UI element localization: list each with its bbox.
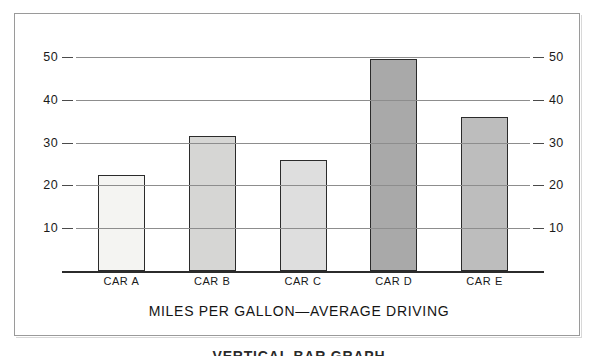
category-label-car-e: CAR E: [445, 275, 525, 287]
gridline: [76, 228, 530, 229]
y-axis-label-right: 30: [549, 137, 573, 150]
bar-car-b: [189, 136, 236, 271]
y-axis-label-left: 50: [34, 51, 58, 64]
bar-car-a: [98, 175, 145, 271]
gridline: [76, 143, 530, 144]
y-axis-tick-right-zero: [533, 271, 544, 273]
y-axis-tick-right: [533, 100, 544, 101]
gridline: [76, 185, 530, 186]
bar-car-c: [280, 160, 327, 271]
x-axis-baseline: [72, 271, 534, 273]
gridline: [76, 57, 530, 58]
y-axis-label-left: 20: [34, 179, 58, 192]
category-label-car-c: CAR C: [263, 275, 343, 287]
y-axis-tick-left: [62, 228, 73, 229]
chart-caption: MILES PER GALLON—AVERAGE DRIVING: [0, 303, 598, 319]
y-axis-label-left: 10: [34, 222, 58, 235]
category-label-car-b: CAR B: [172, 275, 252, 287]
y-axis-label-right: 40: [549, 94, 573, 107]
y-axis-label-left: 40: [34, 94, 58, 107]
category-label-row: CAR ACAR BCAR CCAR DCAR E: [76, 275, 530, 291]
y-axis-tick-right: [533, 143, 544, 144]
y-axis-tick-left: [62, 57, 73, 58]
y-axis-tick-right: [533, 185, 544, 186]
y-axis-label-right: 20: [549, 179, 573, 192]
category-label-car-a: CAR A: [81, 275, 161, 287]
y-axis-tick-left: [62, 185, 73, 186]
y-axis-tick-left: [62, 143, 73, 144]
bar-series: [76, 57, 530, 271]
y-axis-tick-left: [62, 100, 73, 101]
y-axis-label-left: 30: [34, 137, 58, 150]
gridline: [76, 100, 530, 101]
bar-car-d: [370, 59, 417, 271]
y-axis-tick-left-zero: [62, 271, 73, 273]
y-axis-tick-right: [533, 57, 544, 58]
chart-plot-area: [76, 57, 530, 271]
bar-car-e: [461, 117, 508, 271]
y-axis-tick-right: [533, 228, 544, 229]
figure-page: 10102020303040405050 CAR ACAR BCAR CCAR …: [0, 0, 598, 356]
y-axis-label-right: 50: [549, 51, 573, 64]
figure-number-note: VERTICAL BAR GRAPH: [0, 348, 598, 356]
y-axis-label-right: 10: [549, 222, 573, 235]
category-label-car-d: CAR D: [354, 275, 434, 287]
